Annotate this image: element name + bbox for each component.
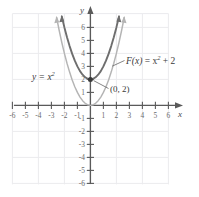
y-tick-label: 5 (81, 36, 85, 45)
x-axis-label: x (177, 109, 182, 119)
y-tick-label: 3 (81, 62, 85, 71)
x-axis-arrow (175, 102, 183, 108)
x-tick-label: -6 (9, 111, 15, 120)
y-tick-label: -6 (79, 179, 85, 188)
graph-figure: -6 -5 -4 -3 -2 -1 1 2 3 4 5 6 6 5 4 3 2 … (0, 0, 199, 197)
vertex-point-marker (88, 77, 93, 82)
x-tick-label: 3 (128, 111, 132, 120)
x-tick-label: -3 (48, 111, 54, 120)
y-tick-label: -3 (79, 140, 85, 149)
x-tick-label: 5 (154, 111, 158, 120)
transformed-function-label: F(x) = x2 + 2 (125, 54, 176, 66)
x-tick-label: 1 (102, 111, 106, 120)
x-tick-label: 4 (141, 111, 145, 120)
y-tick-label: -2 (79, 127, 85, 136)
y-tick-label: -4 (79, 153, 85, 162)
x-tick-label: -5 (22, 111, 28, 120)
transformed-eq: = x (142, 56, 157, 66)
x-tick-label: 6 (167, 111, 171, 120)
y-tick-label: -1 (79, 114, 85, 123)
x-tick-label: -2 (61, 111, 67, 120)
y-tick-label: 1 (81, 88, 85, 97)
x-tick-label: 2 (115, 111, 119, 120)
transformed-fn-name: F(x) (125, 56, 142, 67)
coordinate-plane: -6 -5 -4 -3 -2 -1 1 2 3 4 5 6 6 5 4 3 2 … (0, 0, 199, 197)
y-tick-label: 4 (81, 49, 85, 58)
y-axis-label: y (79, 5, 84, 15)
vertex-point-label: (0, 2) (110, 84, 130, 94)
parent-exponent: 2 (52, 70, 56, 77)
x-tick-label: -4 (35, 111, 41, 120)
y-tick-label: -5 (79, 166, 85, 175)
y-tick-label: 6 (81, 23, 85, 32)
transformed-tail: + 2 (160, 56, 175, 66)
y-axis-arrow (87, 6, 93, 14)
parent-eq: y = x (31, 72, 52, 82)
